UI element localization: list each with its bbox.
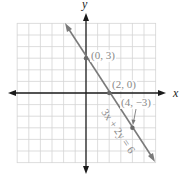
x-axis: x <box>8 86 179 100</box>
point-0-3 <box>84 56 88 60</box>
x-axis-left-arrow-icon <box>8 90 16 96</box>
y-axis-down-arrow-icon <box>83 166 89 174</box>
line-top-arrow-icon <box>65 23 72 32</box>
y-axis: y <box>81 0 89 174</box>
point-label-2-0: (2, 0) <box>112 78 136 91</box>
point-4-neg3 <box>130 126 134 130</box>
point-label-4-neg3: (4, −3) <box>121 96 151 109</box>
point-2-0 <box>107 91 111 95</box>
y-axis-label: y <box>81 0 88 11</box>
graph: x y (0, 3) (2, 0) (4, −3) 3x + 2y = 6 <box>0 0 186 180</box>
line-bottom-arrow-icon <box>148 153 155 162</box>
y-axis-up-arrow-icon <box>83 13 89 21</box>
point-label-0-3: (0, 3) <box>91 49 115 62</box>
x-axis-right-arrow-icon <box>158 90 166 96</box>
x-axis-label: x <box>172 86 179 100</box>
